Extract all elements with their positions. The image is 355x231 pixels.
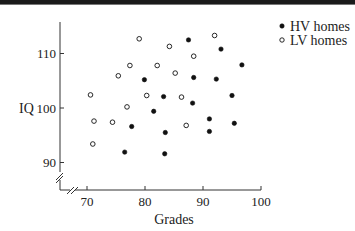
x-axis-title: Grades (154, 212, 194, 227)
y-tick-label: 100 (37, 101, 57, 116)
lv-point (110, 120, 115, 125)
lv-point (116, 74, 121, 79)
lv-point (167, 44, 172, 49)
lv-point (191, 54, 196, 59)
hv-point (230, 93, 234, 97)
hv-point (161, 94, 165, 98)
hv-point (163, 130, 167, 134)
hv-point (232, 121, 236, 125)
lv-point (212, 33, 217, 38)
hv-point (190, 101, 194, 105)
x-tick-label: 90 (197, 194, 210, 209)
hv-point (142, 78, 146, 82)
x-tick-label: 80 (139, 194, 152, 209)
hv-point (123, 150, 127, 154)
lv-point (92, 119, 97, 124)
legend-hv-marker-icon (280, 24, 284, 28)
x-tick-label: 70 (81, 194, 94, 209)
hv-point (214, 77, 218, 81)
hv-point (186, 38, 190, 42)
hv-point (130, 124, 134, 128)
hv-point (163, 152, 167, 156)
lv-point (137, 37, 142, 42)
lv-point (155, 63, 160, 68)
hv-point (219, 47, 223, 51)
lv-point (179, 95, 184, 100)
hv-point (207, 129, 211, 133)
lv-point (144, 93, 149, 98)
x-tick-label: 100 (251, 194, 271, 209)
legend-label: LV homes (290, 33, 347, 48)
y-tick-label: 90 (43, 155, 56, 170)
legend-lv-marker-icon (280, 38, 284, 42)
lv-point (125, 105, 130, 110)
lv-point (91, 142, 96, 147)
y-axis-title: IQ (19, 101, 34, 116)
hv-point (207, 117, 211, 121)
legend-label: HV homes (290, 19, 350, 34)
lv-point (184, 123, 189, 128)
y-tick-label: 110 (37, 46, 56, 61)
lv-point (173, 71, 178, 76)
lv-point (128, 63, 133, 68)
hv-point (152, 109, 156, 113)
scatter-chart: 70809010090100110GradesIQ HV homesLV hom… (0, 0, 355, 231)
hv-point (192, 75, 196, 79)
data-points (88, 33, 244, 156)
legend: HV homesLV homes (280, 19, 350, 48)
lv-point (88, 93, 93, 98)
hv-point (240, 63, 244, 67)
